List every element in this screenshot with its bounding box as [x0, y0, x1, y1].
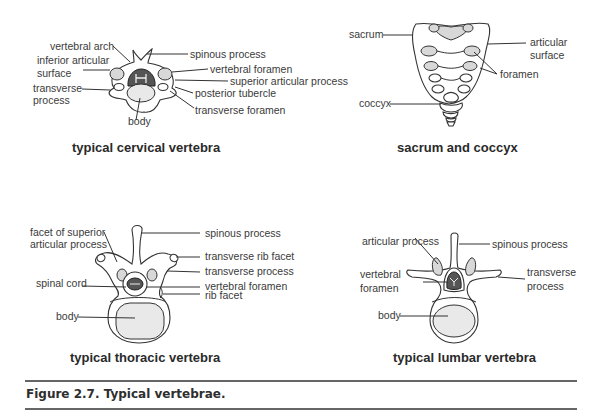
- label-posterior-tubercle: posterior tubercle: [195, 87, 276, 99]
- label-facet-2: articular process: [30, 238, 107, 250]
- label-spinal-cord: spinal cord: [36, 277, 87, 289]
- label-transverse-process-2: process: [527, 280, 564, 292]
- label-spinous-process: spinous process: [205, 227, 281, 239]
- label-transverse-rib-facet: transverse rib facet: [205, 250, 294, 262]
- label-facet-1: facet of superior: [30, 226, 106, 238]
- label-body: body: [128, 115, 152, 127]
- vertebrae-figure: vertebral arch inferior articular surfac…: [0, 0, 602, 415]
- lumbar-title: typical lumbar vertebra: [393, 350, 537, 365]
- label-body: body: [56, 310, 80, 322]
- lumbar-vertebra-panel: articular process vertebral foramen body…: [360, 233, 576, 365]
- articular-process: [432, 258, 442, 275]
- transverse-foramen-left: [114, 84, 124, 91]
- label-spinous-process: spinous process: [190, 48, 266, 60]
- label-vertebral-foramen-2: foramen: [360, 282, 399, 294]
- sacrum-drawing: [413, 23, 490, 126]
- inferior-articular-surface: [110, 68, 124, 80]
- transverse-foramen-right: [158, 84, 168, 91]
- vertebral-foramen: [447, 272, 461, 290]
- sacrum-title: sacrum and coccyx: [397, 140, 518, 155]
- superior-articular-surface: [158, 68, 172, 80]
- label-superior-articular-process: superior articular process: [230, 75, 348, 87]
- label-transverse-process-2: process: [33, 94, 70, 106]
- thoracic-title: typical thoracic vertebra: [70, 350, 221, 365]
- label-transverse-foramen: transverse foramen: [195, 104, 286, 116]
- label-vertebral-foramen-1: vertebral: [360, 268, 401, 280]
- label-articular-surface-1: articular: [530, 36, 568, 48]
- label-transverse-process-1: transverse: [527, 266, 576, 278]
- label-inferior-articular-2: surface: [37, 67, 72, 79]
- label-foramen: foramen: [500, 68, 539, 80]
- label-sacrum: sacrum: [349, 28, 384, 40]
- label-vertebral-arch: vertebral arch: [50, 40, 114, 52]
- vertebral-body: [116, 303, 164, 339]
- figure-caption: Figure 2.7. Typical vertebrae.: [26, 387, 226, 401]
- label-articular-surface-2: surface: [530, 49, 565, 61]
- label-articular-process: articular process: [362, 235, 439, 247]
- label-spinous-process: spinous process: [492, 238, 568, 250]
- label-transverse-process: transverse process: [205, 265, 294, 277]
- thoracic-vertebra-drawing: [96, 226, 180, 344]
- sacrum-panel: sacrum articular surface foramen coccyx …: [349, 23, 568, 155]
- thoracic-vertebra-panel: facet of superior articular process spin…: [30, 226, 294, 366]
- lumbar-vertebra-drawing: [407, 233, 501, 343]
- label-vertebral-foramen: vertebral foramen: [210, 63, 292, 75]
- cervical-vertebra-panel: vertebral arch inferior articular surfac…: [33, 40, 348, 155]
- vertebral-body: [433, 305, 475, 337]
- label-body: body: [378, 309, 402, 321]
- coccyx-segment: [440, 103, 463, 112]
- cervical-title: typical cervical vertebra: [72, 140, 221, 155]
- label-rib-facet: rib facet: [205, 289, 242, 301]
- vertebral-body: [127, 84, 155, 102]
- cervical-vertebra-drawing: [109, 49, 176, 112]
- label-inferior-articular-1: inferior articular: [37, 54, 110, 66]
- label-coccyx: coccyx: [359, 97, 392, 109]
- label-transverse-process-1: transverse: [33, 82, 82, 94]
